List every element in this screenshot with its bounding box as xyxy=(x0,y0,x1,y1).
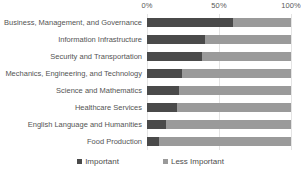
bar-row xyxy=(147,137,291,146)
legend-swatch-icon xyxy=(77,159,82,164)
bar-segment-less-important xyxy=(159,137,291,146)
bar-segment-less-important xyxy=(166,120,291,129)
bar-segment-important xyxy=(147,86,179,95)
bar-row xyxy=(147,86,291,95)
category-label: Science and Mathematics xyxy=(56,87,142,95)
gridline xyxy=(291,14,292,150)
category-axis-labels: Business, Management, and GovernanceInfo… xyxy=(0,14,145,150)
x-tick-label: 100% xyxy=(281,1,301,10)
legend-label: Important xyxy=(85,157,119,166)
bar-row xyxy=(147,120,291,129)
bar-row xyxy=(147,52,291,61)
bar-segment-less-important xyxy=(202,52,291,61)
legend-label: Less Important xyxy=(171,157,224,166)
bar-segment-important xyxy=(147,18,233,27)
bar-segment-less-important xyxy=(182,69,291,78)
bar-segment-less-important xyxy=(177,103,291,112)
x-tick-label: 50% xyxy=(211,1,226,10)
bar-row xyxy=(147,69,291,78)
bar-segment-important xyxy=(147,35,205,44)
category-label: English Language and Humanities xyxy=(28,121,142,129)
x-axis-tick-labels: 0%50%100% xyxy=(0,0,301,14)
bar-segment-important xyxy=(147,52,202,61)
bar-segment-important xyxy=(147,103,177,112)
bar-row xyxy=(147,35,291,44)
category-label: Security and Transportation xyxy=(50,53,142,61)
bar-segment-less-important xyxy=(233,18,291,27)
legend-item[interactable]: Important xyxy=(77,157,119,166)
category-label: Business, Management, and Governance xyxy=(4,19,142,27)
legend-swatch-icon xyxy=(163,159,168,164)
category-label: Mechanics, Engineering, and Technology xyxy=(5,70,142,78)
legend-item[interactable]: Less Important xyxy=(163,157,224,166)
bar-segment-important xyxy=(147,69,182,78)
bar-segment-important xyxy=(147,120,166,129)
bar-row xyxy=(147,18,291,27)
category-label: Healthcare Services xyxy=(75,104,142,112)
bar-segment-less-important xyxy=(205,35,291,44)
category-label: Information Infrastructure xyxy=(58,36,142,44)
chart-legend: ImportantLess Important xyxy=(0,153,301,169)
bar-row xyxy=(147,103,291,112)
bar-segment-important xyxy=(147,137,159,146)
category-label: Food Production xyxy=(87,138,142,146)
x-tick-label: 0% xyxy=(141,1,152,10)
plot-area xyxy=(147,14,291,150)
stacked-bar-chart: 0%50%100% Business, Management, and Gove… xyxy=(0,0,301,171)
bar-segment-less-important xyxy=(179,86,291,95)
